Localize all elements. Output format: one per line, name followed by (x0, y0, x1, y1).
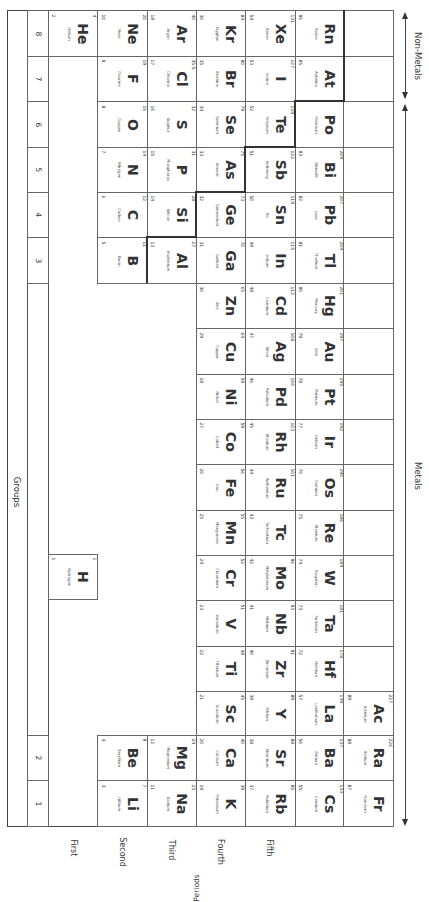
element-mass: 65 (240, 287, 245, 293)
empty-cell (343, 555, 394, 601)
element-content: 112CdCadmium48 (246, 284, 295, 329)
element-symbol: Ni (223, 375, 239, 420)
element-cell-cl: 35.5ClChlorine17 (147, 56, 197, 102)
element-cell-cr: 52CrChromium24 (196, 555, 246, 601)
element-content: 39KPotassium19 (197, 781, 246, 826)
element-symbol: Na (174, 781, 190, 826)
element-atomic-number: 77 (297, 423, 302, 429)
element-symbol: Nb (272, 601, 288, 646)
element-name: Germanium (215, 193, 220, 238)
element-content: 91ZrZirconium40 (246, 647, 295, 692)
group-number-cell: 6 (27, 101, 49, 148)
element-atomic-number: 88 (346, 739, 351, 745)
element-cell-zr: 91ZrZirconium40 (245, 646, 296, 692)
element-mass: 39 (240, 784, 245, 790)
element-name: Argon (166, 11, 171, 56)
element-mass: 89 (289, 694, 294, 700)
element-symbol: Tc (272, 511, 288, 556)
element-symbol: Zn (223, 284, 239, 329)
element-atomic-number: 13 (150, 241, 155, 247)
element-symbol: Cl (174, 57, 190, 102)
element-mass: 40 (240, 739, 245, 745)
element-name: Caesium (313, 781, 318, 826)
element-cell-li: 7LiLithium3 (97, 780, 148, 827)
element-symbol: Li (124, 781, 140, 826)
element-content: 204TlThallium81 (295, 238, 344, 283)
element-symbol: Fe (223, 465, 239, 510)
element-atomic-number: 5 (100, 241, 105, 244)
element-cell-i: 127IIodine53 (245, 56, 296, 102)
element-symbol: Zr (272, 647, 288, 692)
element-name: Helium (67, 11, 72, 56)
element-symbol: Xe (272, 11, 288, 56)
element-content: 70GaGallium31 (197, 238, 246, 283)
element-name: Technetium (264, 511, 269, 556)
empty-cell (343, 510, 394, 556)
element-cell-si: 28SiSilicon14 (147, 192, 197, 238)
element-atomic-number: 23 (199, 604, 204, 610)
element-content: 40CaCalcium20 (197, 736, 246, 781)
element-symbol: Cs (321, 781, 337, 826)
element-atomic-number: 27 (199, 423, 204, 429)
element-cell-cd: 112CdCadmium48 (245, 283, 296, 329)
element-name: Calcium (215, 736, 220, 781)
element-content: 197AuGold79 (295, 329, 344, 374)
element-name: Lead (313, 193, 318, 238)
element-symbol: Se (223, 102, 239, 147)
element-mass: 227 (387, 694, 392, 703)
element-cell-os: 190OsOsmium76 (295, 464, 344, 511)
element-cell-y: 89YYttrium39 (245, 691, 296, 736)
element-mass: 7 (141, 784, 146, 787)
element-cell-na: 23NaSodium11 (147, 780, 197, 827)
metal-boundary-line (195, 191, 245, 193)
element-symbol: Ga (223, 238, 239, 283)
group-number: 6 (34, 122, 43, 127)
element-symbol: Ru (272, 465, 288, 510)
element-cell-tl: 204TlThallium81 (295, 237, 344, 284)
element-mass: 106 (289, 378, 294, 387)
element-mass: 52 (240, 559, 245, 565)
element-atomic-number: 54 (248, 14, 253, 20)
element-content: 56FeIron26 (197, 465, 246, 510)
element-atomic-number: 7 (100, 151, 105, 154)
element-atomic-number: 43 (248, 514, 253, 520)
element-content: 4HeHelium2 (49, 11, 98, 56)
element-symbol: Os (321, 465, 337, 510)
element-mass: 59 (240, 423, 245, 429)
element-atomic-number: 74 (297, 559, 302, 565)
element-symbol: He (75, 11, 91, 56)
arrow-up-icon (402, 12, 408, 19)
element-content: 45ScScandium21 (197, 691, 246, 736)
element-cell-rb: 85RbRubidium37 (245, 780, 296, 827)
element-cell-f: 19FFluorine9 (97, 56, 148, 102)
element-cell-pt: 195PtPlatinum78 (295, 374, 344, 420)
element-content: 178HfHafnium72 (295, 647, 344, 692)
element-mass: 45 (240, 694, 245, 700)
element-atomic-number: 72 (297, 650, 302, 656)
element-content: 59CoCobalt27 (197, 420, 246, 465)
element-name: Mercury (313, 284, 318, 329)
element-atomic-number: 4 (100, 739, 105, 742)
arrow-up-icon (402, 104, 408, 111)
element-content: 184WTungsten74 (295, 556, 344, 601)
element-atomic-number: 8 (100, 105, 105, 108)
group-number: 5 (34, 168, 43, 173)
element-name: Vanadium (215, 601, 220, 646)
element-mass: 27 (191, 241, 196, 247)
element-mass: 88 (289, 739, 294, 745)
element-atomic-number: 44 (248, 468, 253, 474)
element-cell-nb: 93NbNiobium41 (245, 600, 296, 647)
metal-boundary-line (244, 147, 246, 193)
element-name: Francium (362, 781, 367, 826)
element-symbol: Cd (272, 284, 288, 329)
empty-cell (343, 419, 394, 465)
element-atomic-number: 45 (248, 423, 253, 429)
element-atomic-number: 19 (199, 784, 204, 790)
element-name: Aluminium (166, 238, 171, 283)
element-symbol: Fr (370, 781, 386, 826)
element-name: Krypton (215, 11, 220, 56)
element-content: 201HgMercury80 (295, 284, 344, 329)
empty-cell (343, 646, 394, 692)
element-cell-ba: 137BaBarium56 (295, 735, 344, 781)
element-name: Molybdenum (264, 556, 269, 601)
